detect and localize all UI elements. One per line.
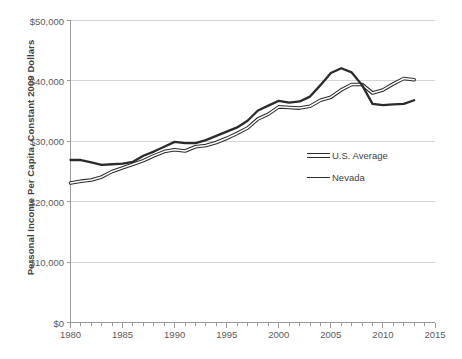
x-axis-major-ticks <box>71 323 436 329</box>
us-average-line-swatch-icon <box>307 151 330 160</box>
chart-legend: U.S. Average Nevada <box>307 144 427 188</box>
legend-item-us-average[interactable]: U.S. Average <box>307 144 427 166</box>
line-chart: Personal Income Per Capita, Constant 200… <box>0 0 462 359</box>
legend-item-nevada[interactable]: Nevada <box>307 166 427 188</box>
nevada-line-swatch-icon <box>307 173 330 182</box>
gridlines <box>71 21 436 263</box>
x-axis-minor-ticks <box>71 323 436 327</box>
legend-label-us-average: U.S. Average <box>332 150 388 161</box>
legend-label-nevada: Nevada <box>332 172 365 183</box>
